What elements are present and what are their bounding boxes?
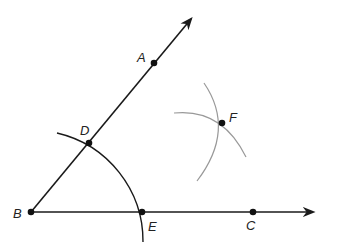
ray-ba: [31, 19, 191, 212]
arc-centered-b: [57, 133, 143, 242]
label-f: F: [229, 110, 238, 125]
point-d: [86, 140, 93, 147]
point-b: [28, 209, 35, 216]
point-a: [151, 60, 158, 67]
label-c: C: [246, 218, 256, 233]
point-f: [219, 120, 226, 127]
label-e: E: [148, 219, 157, 234]
arc-centered-e: [197, 83, 218, 181]
label-d: D: [80, 123, 89, 138]
diagram-canvas: A B C D E F: [0, 0, 340, 252]
label-b: B: [13, 206, 22, 221]
angle-construction-diagram: A B C D E F: [0, 0, 340, 252]
label-a: A: [136, 50, 146, 65]
point-c: [250, 209, 257, 216]
point-e: [139, 209, 146, 216]
